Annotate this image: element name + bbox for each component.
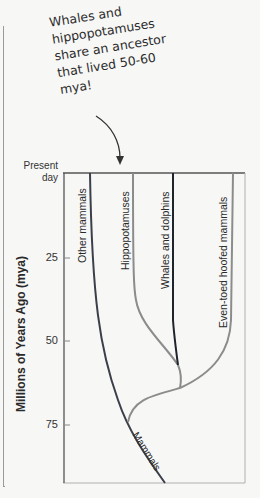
branch-ungulate-stem <box>128 388 180 422</box>
tick-label-50: 50 <box>38 334 58 346</box>
branch-hippopotamuses <box>133 173 178 365</box>
label-whales-dolphins: Whales and dolphins <box>159 192 171 289</box>
callout-arrow-icon <box>96 116 120 158</box>
label-hippopotamuses: Hippopotamuses <box>119 191 131 270</box>
present-day-label: Present day <box>20 160 58 184</box>
branch-whale-hippo-stem <box>178 365 181 388</box>
label-other-mammals: Other mammals <box>76 188 88 263</box>
y-axis-title: Millions of Years Ago (mya) <box>14 256 28 412</box>
branch-whales-dolphins <box>173 173 178 365</box>
label-even-toed: Even-toed hoofed mammals <box>217 197 229 328</box>
tick-label-75: 75 <box>38 418 58 430</box>
tick-label-25: 25 <box>38 251 58 263</box>
